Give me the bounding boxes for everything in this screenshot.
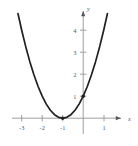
y-tick-label-4: 4 xyxy=(73,27,77,34)
x-axis-label: x xyxy=(127,115,131,122)
x-tick-label--3: -3 xyxy=(19,124,24,131)
y-intercept-point-marker xyxy=(82,95,85,98)
y-tick-label-1: 1 xyxy=(73,93,76,100)
y-tick-label-2: 2 xyxy=(73,71,76,78)
x-tick-label--2: -2 xyxy=(40,124,45,131)
x-axis-arrowhead xyxy=(116,116,121,120)
y-axis-label: y xyxy=(86,5,90,12)
x-tick-label--1: -1 xyxy=(60,124,65,131)
parabola-curve xyxy=(18,14,107,119)
y-tick-label-3: 3 xyxy=(73,49,76,56)
plot-canvas: -3 -2 -1 1 1 2 3 4 x y xyxy=(0,0,138,146)
y-axis-arrowhead xyxy=(81,11,85,16)
parabola-figure: -3 -2 -1 1 1 2 3 4 x y xyxy=(0,0,138,146)
vertex-point-marker xyxy=(61,117,64,120)
x-tick-label-1: 1 xyxy=(102,124,105,131)
